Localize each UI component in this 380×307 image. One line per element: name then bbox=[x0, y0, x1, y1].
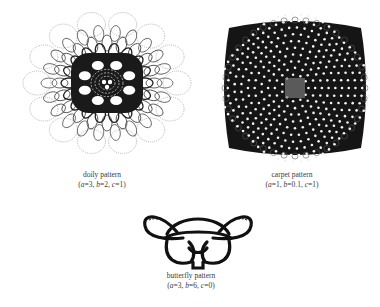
carpet-dot bbox=[268, 61, 271, 64]
carpet-dot bbox=[252, 131, 255, 134]
carpet-dot bbox=[236, 58, 239, 61]
carpet-dot bbox=[283, 110, 286, 113]
butterfly-right-wing bbox=[213, 217, 251, 239]
carpet-dot bbox=[221, 75, 224, 78]
carpet-dot bbox=[337, 72, 340, 75]
carpet-dot bbox=[325, 124, 328, 127]
carpet-dot bbox=[300, 160, 303, 162]
butterfly-param-b: 6 bbox=[193, 281, 197, 290]
butterfly-left-wing bbox=[145, 217, 183, 239]
carpet-dot bbox=[306, 99, 309, 102]
carpet-dot bbox=[273, 65, 276, 68]
carpet-dot bbox=[248, 134, 251, 137]
carpet-dot bbox=[299, 54, 302, 57]
carpet-dot bbox=[326, 79, 329, 82]
carpet-dot bbox=[333, 49, 336, 52]
carpet-dot bbox=[334, 87, 337, 90]
carpet-dot bbox=[348, 65, 351, 68]
carpet-dot bbox=[269, 155, 272, 158]
carpet-dot bbox=[305, 132, 308, 135]
carpet-dot bbox=[292, 53, 295, 56]
carpet-dot bbox=[258, 72, 261, 75]
carpet-dot bbox=[273, 118, 276, 121]
carpet-dot bbox=[320, 130, 323, 133]
butterfly-params: (a=3, b=6, c=0) bbox=[130, 281, 252, 291]
carpet-dot bbox=[341, 47, 344, 50]
carpet-dot bbox=[322, 55, 325, 58]
carpet-dot bbox=[276, 94, 279, 97]
carpet-dot bbox=[282, 152, 285, 155]
carpet-dot bbox=[315, 156, 318, 159]
carpet-dot bbox=[276, 16, 279, 19]
carpet-dot bbox=[229, 102, 232, 105]
doily-params: (a=3, b=2, c=1) bbox=[42, 180, 162, 190]
carpet-dot bbox=[254, 95, 257, 98]
carpet-dot bbox=[253, 87, 256, 90]
carpet-dot bbox=[307, 117, 310, 120]
carpet-dot bbox=[333, 95, 336, 98]
carpet-dot bbox=[270, 41, 273, 44]
carpet-dot bbox=[257, 28, 260, 31]
carpet-dot bbox=[336, 59, 339, 62]
carpet-dot bbox=[312, 79, 315, 82]
carpet-dot bbox=[265, 46, 268, 49]
carpet-dot bbox=[336, 114, 339, 117]
carpet-dot bbox=[307, 57, 310, 60]
carpet-dot bbox=[311, 144, 314, 147]
carpet-dot bbox=[252, 122, 255, 125]
carpet-dot bbox=[227, 61, 230, 64]
carpet-dot bbox=[315, 100, 318, 103]
carpet-dot bbox=[314, 39, 317, 42]
doily-ring-loop bbox=[52, 78, 68, 88]
carpet-dot bbox=[257, 37, 260, 40]
carpet-dot bbox=[267, 36, 270, 39]
carpet-dot bbox=[319, 94, 322, 97]
doily-center-mass bbox=[71, 53, 143, 113]
carpet-dot bbox=[343, 132, 346, 135]
carpet-dot bbox=[312, 128, 315, 131]
carpet-dot bbox=[252, 51, 255, 54]
carpet-dot bbox=[290, 134, 293, 137]
carpet-dot bbox=[257, 146, 260, 149]
carpet-dot bbox=[282, 21, 285, 24]
carpet-dot bbox=[248, 79, 251, 82]
carpet-dot bbox=[362, 109, 365, 112]
doily-ring-loop bbox=[75, 28, 91, 47]
doily-ring-loop bbox=[60, 111, 78, 130]
carpet-dot bbox=[265, 55, 268, 58]
carpet-dot bbox=[298, 154, 301, 157]
carpet-dot bbox=[306, 74, 309, 77]
carpet-dot bbox=[260, 52, 263, 55]
carpet-dot bbox=[319, 27, 322, 30]
carpet-dot bbox=[305, 21, 308, 24]
doily-ring-loop bbox=[93, 124, 105, 141]
carpet-dot bbox=[247, 87, 250, 90]
carpet-dot bbox=[328, 25, 331, 28]
carpet-dot bbox=[290, 20, 293, 23]
carpet-dot bbox=[338, 137, 341, 140]
carpet-dot bbox=[233, 91, 236, 94]
carpet-dot bbox=[325, 66, 328, 69]
carpet-dot bbox=[343, 42, 346, 45]
carpet-dot bbox=[277, 136, 280, 139]
carpet-dot bbox=[284, 160, 287, 162]
carpet-dot bbox=[338, 120, 341, 123]
carpet-dot bbox=[284, 118, 287, 121]
carpet-dot bbox=[241, 52, 244, 55]
carpet-dot bbox=[238, 68, 241, 71]
butterfly-caption: butterfly pattern (a=3, b=6, c=0) bbox=[130, 271, 252, 291]
carpet-dot bbox=[263, 98, 266, 101]
carpet-dot bbox=[242, 130, 245, 133]
carpet-dot bbox=[301, 69, 304, 72]
carpet-dot bbox=[309, 123, 312, 126]
carpet-dot bbox=[236, 125, 239, 128]
carpet-dot bbox=[265, 118, 268, 121]
carpet-dot bbox=[359, 116, 362, 119]
carpet-dot bbox=[242, 44, 245, 47]
carpet-dot bbox=[270, 50, 273, 53]
carpet-dot bbox=[241, 62, 244, 65]
carpet-dot bbox=[281, 99, 284, 102]
carpet-dot bbox=[304, 110, 307, 113]
carpet-dot bbox=[319, 79, 322, 82]
butterfly-left-lower-loop bbox=[166, 240, 193, 263]
